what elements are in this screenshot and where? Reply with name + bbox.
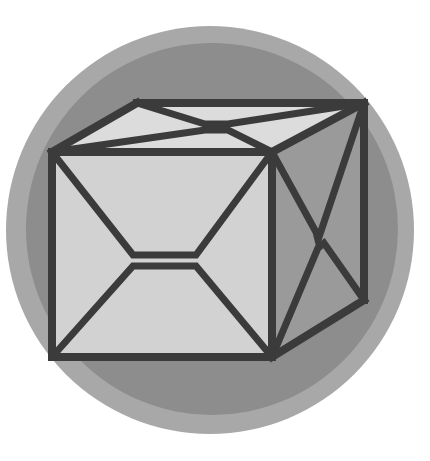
cube-emblem-graphic xyxy=(0,0,430,461)
logo-canvas: Cube Emblem xyxy=(0,0,430,461)
